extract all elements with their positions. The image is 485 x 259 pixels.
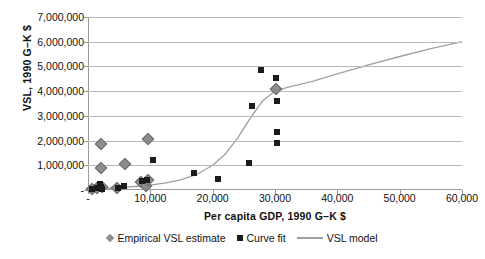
y-tick-mark — [84, 116, 88, 117]
y-tick-mark — [84, 91, 88, 92]
data-point-square — [150, 157, 156, 163]
x-tick-label: 20,000 — [178, 192, 248, 204]
x-axis-title: Per capita GDP, 1990 G–K $ — [88, 210, 462, 222]
y-tick-label: 1,000,000 — [4, 160, 84, 170]
x-tick-label: 40,000 — [302, 192, 372, 204]
y-tick-label: 4,000,000 — [4, 86, 84, 96]
data-point-square — [274, 140, 280, 146]
data-point-square — [249, 103, 255, 109]
legend-label-vsl-model: VSL model — [327, 232, 378, 244]
x-tick-label: 60,000 — [427, 192, 485, 204]
data-point-square — [258, 67, 264, 73]
x-tick-label: 10,000 — [115, 192, 185, 204]
data-point-square — [191, 170, 197, 176]
data-point-square — [246, 160, 252, 166]
gridline-y — [88, 42, 462, 43]
chart-legend: Empirical VSL estimate Curve fit VSL mod… — [0, 232, 485, 244]
x-tick-label: - — [53, 192, 123, 204]
data-point-square — [215, 176, 221, 182]
x-tick-label: 30,000 — [240, 192, 310, 204]
legend-item-curve-fit: Curve fit — [237, 232, 286, 244]
y-tick-mark — [84, 165, 88, 166]
y-tick-mark — [84, 66, 88, 67]
line-marker-icon — [297, 237, 323, 239]
legend-label-curve-fit: Curve fit — [247, 232, 286, 244]
y-axis-tick-labels: -1,000,0002,000,0003,000,0004,000,0005,0… — [0, 0, 84, 259]
y-tick-mark — [84, 17, 88, 18]
x-tick-label: 50,000 — [365, 192, 435, 204]
plot-area — [88, 17, 462, 190]
data-point-square — [144, 177, 150, 183]
data-point-square — [273, 75, 279, 81]
y-tick-mark — [84, 42, 88, 43]
vsl-scatter-chart: VSL, 1990 G–K $ -1,000,0002,000,0003,000… — [0, 0, 485, 259]
x-axis-tick-labels: -10,00020,00030,00040,00050,00060,000 — [0, 192, 485, 208]
gridline-y — [88, 116, 462, 117]
data-point-square — [99, 186, 105, 192]
data-point-square — [115, 185, 121, 191]
gridline-y — [88, 17, 462, 18]
square-marker-icon — [237, 235, 243, 241]
y-tick-label: 5,000,000 — [4, 61, 84, 71]
y-tick-label: 2,000,000 — [4, 136, 84, 146]
legend-item-vsl-model: VSL model — [297, 232, 378, 244]
y-tick-label: 3,000,000 — [4, 111, 84, 121]
diamond-marker-icon — [106, 234, 114, 242]
gridline-y — [88, 66, 462, 67]
data-point-square — [274, 98, 280, 104]
gridline-y — [88, 165, 462, 166]
data-point-square — [121, 183, 127, 189]
data-point-square — [274, 129, 280, 135]
y-tick-mark — [84, 141, 88, 142]
y-tick-label: 6,000,000 — [4, 37, 84, 47]
legend-label-empirical: Empirical VSL estimate — [117, 232, 225, 244]
legend-item-empirical: Empirical VSL estimate — [107, 232, 225, 244]
y-tick-label: 7,000,000 — [4, 12, 84, 22]
